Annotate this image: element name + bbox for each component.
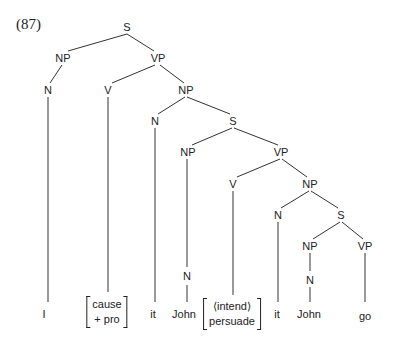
leaf-it: it	[150, 308, 156, 320]
leaf-cause-pro: cause+ pro	[86, 296, 127, 330]
leaf-intend-persuade: ⟨intend⟩persuade	[203, 298, 261, 332]
node-vp-embedded: VP	[274, 146, 289, 158]
node-np-john: NP	[180, 146, 195, 158]
node-s-root: S	[123, 21, 130, 33]
node-v-intend: V	[229, 178, 236, 190]
leaf-john: John	[172, 308, 196, 320]
node-np-object2: NP	[302, 178, 317, 190]
leaf-i: I	[42, 308, 45, 320]
leaf-it2: it	[274, 308, 280, 320]
node-s-embedded: S	[229, 115, 236, 127]
node-n-john: N	[183, 270, 191, 282]
node-vp-main: VP	[151, 52, 166, 64]
leaf-intend-top: ⟨intend⟩	[209, 299, 255, 314]
leaf-cause-top: cause	[92, 297, 121, 312]
leaf-go: go	[359, 310, 371, 322]
node-np-object: NP	[178, 84, 193, 96]
leaf-john2: John	[297, 308, 321, 320]
node-n-i: N	[44, 84, 52, 96]
node-n-it2: N	[274, 209, 282, 221]
node-v-cause: V	[104, 84, 111, 96]
node-np-subject: NP	[55, 52, 70, 64]
leaf-intend-bottom: persuade	[209, 314, 255, 329]
node-vp-go: VP	[358, 240, 373, 252]
node-s-lowest: S	[337, 209, 344, 221]
node-np-john2: NP	[302, 240, 317, 252]
node-n-it: N	[151, 115, 159, 127]
leaf-cause-bottom: + pro	[92, 312, 121, 327]
node-n-john2: N	[306, 274, 314, 286]
